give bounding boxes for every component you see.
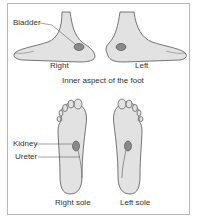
left-kidney-reflex-point — [125, 141, 132, 151]
left-sole — [114, 99, 144, 194]
inner-aspect-caption: Inner aspect of the foot — [62, 77, 144, 85]
foot-illustration — [0, 0, 197, 221]
kidney-label: Kidney — [13, 140, 37, 148]
left-bladder-reflex-point — [116, 44, 126, 51]
bladder-label: Bladder — [13, 19, 41, 27]
right-sole — [36, 99, 87, 194]
kidney-reflex-point — [73, 141, 80, 151]
right-foot-label: Right — [50, 62, 69, 70]
left-sole-label: Left sole — [120, 199, 150, 207]
right-sole-label: Right sole — [55, 199, 91, 207]
left-foot-side-view — [106, 12, 186, 62]
ureter-label: Ureter — [15, 153, 37, 161]
left-foot-label: Left — [135, 62, 148, 70]
